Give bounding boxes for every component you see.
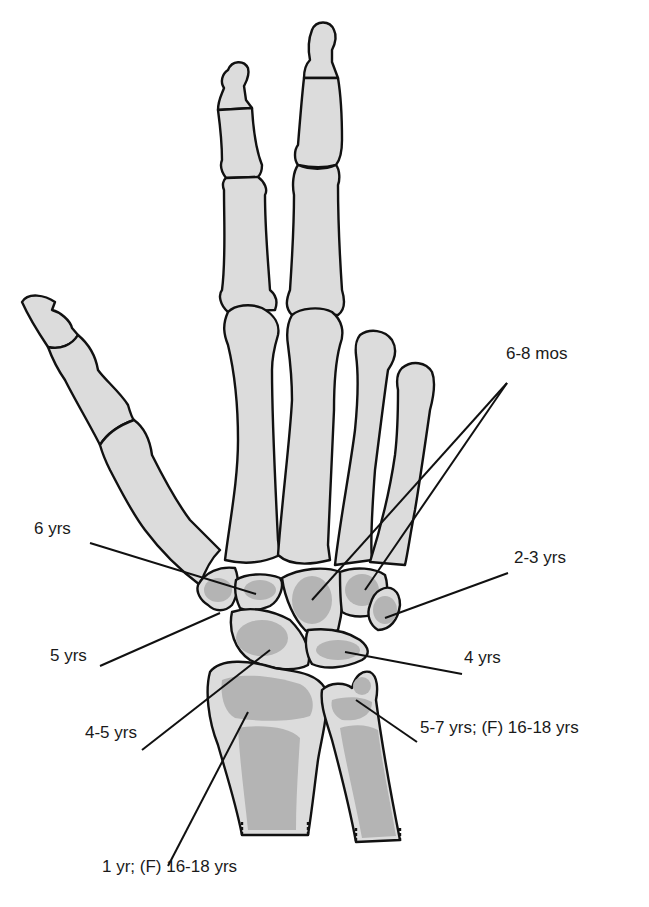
radius-bone [208,662,327,836]
middle-finger-bones [278,23,344,564]
leader-2-3-yrs [385,573,508,618]
label-lunate: 4 yrs [464,649,501,666]
leader-4-yrs [345,652,462,674]
ring-little-metacarpals [335,331,434,565]
label-trapezoid: 6 yrs [34,520,71,537]
label-ulna-epiphysis: 5-7 yrs; (F) 16-18 yrs [420,719,579,736]
index-finger-bones [218,62,280,562]
label-capitate-hamate: 6-8 mos [506,345,567,362]
hand-wrist-skeleton-diagram [0,0,649,907]
label-radius-epiphysis: 1 yr; (F) 16-18 yrs [102,858,237,875]
ulna-bone [322,672,400,842]
leader-5-yrs [100,613,220,666]
leader-6-8-mos-b [365,383,507,590]
label-triquetrum: 2-3 yrs [514,549,566,566]
thumb-bones [22,296,220,585]
label-trapezium: 5 yrs [50,647,87,664]
label-scaphoid: 4-5 yrs [85,724,137,741]
